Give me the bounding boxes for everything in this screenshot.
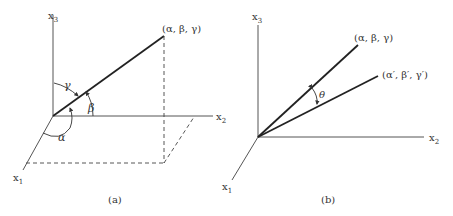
point-label: (α, β, γ) [162,23,201,34]
theta-label: θ [319,89,325,100]
projection-parallel-x1 [164,117,194,163]
vector [53,36,164,116]
x1-label: x1 [13,172,23,186]
point2-label: (α′, β′, γ′) [382,69,428,80]
vector-1 [258,45,358,137]
panel-b: θ x3 x2 x1 (α, β, γ) (α′, β′, γ′) (b) [222,11,439,205]
point1-label: (α, β, γ) [354,32,393,43]
x3-label: x3 [252,11,262,25]
x1-axis [232,137,258,180]
gamma-label: γ [64,79,71,92]
direction-cosines-diagram: γ β α x3 x2 x1 (α, β, γ) (a) θ x3 x2 x1 … [0,0,453,216]
x1-axis [23,116,53,170]
theta-arc [312,88,317,104]
vector-2 [258,76,378,137]
x2-label: x2 [216,111,226,125]
x2-label: x2 [429,132,439,146]
caption-a: (a) [108,194,122,205]
panel-a: γ β α x3 x2 x1 (α, β, γ) (a) [13,10,226,205]
x1-label: x1 [222,181,232,195]
caption-b: (b) [321,194,335,205]
alpha-label: α [58,131,66,144]
beta-label: β [87,102,94,115]
x3-label: x3 [48,10,58,24]
